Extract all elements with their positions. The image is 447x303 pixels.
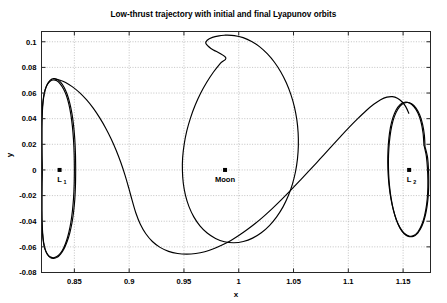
y-tick-label: -0.06 (19, 243, 36, 252)
x-tick-label: 1.15 (396, 277, 412, 286)
x-tick-label: 0.85 (67, 277, 83, 286)
label-l1: L (57, 175, 62, 184)
y-tick-label: 0.1 (26, 38, 37, 47)
y-tick-label: -0.04 (19, 217, 37, 226)
y-tick-label: 0.04 (22, 114, 38, 123)
y-tick-label: 0.02 (22, 140, 37, 149)
chart-title: Low-thrust trajectory with initial and f… (111, 10, 337, 19)
y-tick-label: -0.02 (19, 191, 36, 200)
y-tick-label: 0.08 (22, 63, 37, 72)
figure-container: Low-thrust trajectory with initial and f… (0, 0, 447, 303)
x-tick-label: 0.95 (177, 277, 193, 286)
marker-l1 (58, 168, 62, 172)
x-tick-label: 0.9 (124, 277, 135, 286)
label-l2-subscript: 2 (413, 179, 416, 185)
figure-background (0, 0, 447, 303)
x-tick-label: 1.1 (343, 277, 354, 286)
label-l1-subscript: 1 (64, 179, 67, 185)
y-tick-label: 0.06 (22, 89, 37, 98)
y-axis-label: y (5, 152, 14, 157)
marker-l2 (407, 168, 411, 172)
x-tick-label: 1.05 (286, 277, 302, 286)
label-moon: Moon (215, 175, 236, 184)
x-axis-label: x (234, 290, 239, 299)
trajectory-plot: Low-thrust trajectory with initial and f… (0, 0, 447, 303)
label-l2: L (407, 175, 412, 184)
y-tick-label: -0.08 (19, 268, 36, 277)
marker-moon (223, 168, 227, 172)
y-tick-label: 0 (32, 166, 36, 175)
